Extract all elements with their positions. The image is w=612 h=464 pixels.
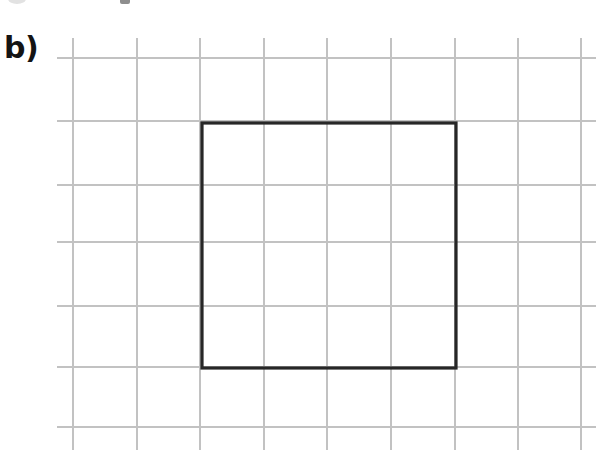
grid-lines xyxy=(57,38,596,450)
grid-canvas xyxy=(0,0,612,464)
shape-layer xyxy=(202,123,456,368)
shape-square xyxy=(202,123,456,368)
figure-panel: b) xyxy=(0,0,612,464)
